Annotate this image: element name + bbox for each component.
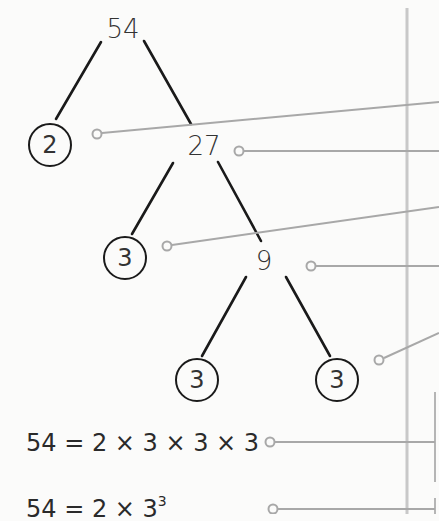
equation-expanded-equals: = [64,429,84,457]
node-54: 54 [106,16,139,42]
node-3b-label: 3 [189,366,204,394]
equation-index-lhs: 54 [26,495,57,521]
equation-expanded: 54 = 2 × 3 × 3 × 3 [26,431,259,455]
equation-expanded-rhs: 2 × 3 × 3 × 3 [92,429,259,457]
node-3b-circled: 3 [175,358,219,402]
node-2-circled: 2 [28,123,72,167]
node-3a-circled: 3 [103,236,147,280]
node-9: 9 [256,248,273,274]
node-3c-circled: 3 [315,358,359,402]
equation-index-form: 54 = 2 × 33 [26,494,167,521]
node-3c-label: 3 [329,366,344,394]
node-3a-label: 3 [117,244,132,272]
equation-expanded-lhs: 54 [26,429,57,457]
equation-index-equals: = [64,495,84,521]
node-27: 27 [187,133,220,159]
node-2-label: 2 [42,131,57,159]
equation-index-exponent: 3 [158,493,167,509]
equation-index-base: 2 × 3 [92,495,158,521]
